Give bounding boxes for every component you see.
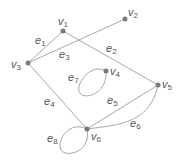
label-e3: e3 — [59, 48, 70, 62]
label-v5: v5 — [162, 78, 173, 92]
vertex-v5 — [156, 83, 161, 88]
edge-e4 — [28, 63, 87, 129]
vertex-v6 — [85, 127, 90, 132]
graph-diagram: v1 v2 v3 v4 v5 v6 e1 e2 e3 e4 e5 e6 e7 e… — [0, 0, 181, 160]
label-v4: v4 — [110, 65, 121, 79]
label-e6: e6 — [130, 117, 141, 131]
label-e5: e5 — [107, 94, 118, 108]
label-e2: e2 — [106, 42, 117, 56]
vertex-v1 — [61, 29, 66, 34]
vertex-v2 — [123, 17, 128, 22]
label-v2: v2 — [128, 6, 139, 20]
label-e7: e7 — [68, 71, 79, 85]
vertex-v4 — [104, 69, 109, 74]
vertex-v3 — [26, 61, 31, 66]
edge-e7-loop — [79, 69, 106, 96]
label-e1: e1 — [35, 34, 46, 48]
label-e8: e8 — [47, 132, 58, 146]
label-v6: v6 — [91, 130, 102, 144]
edge-e8-loop — [60, 127, 88, 154]
label-v1: v1 — [58, 15, 69, 29]
label-e4: e4 — [44, 95, 55, 109]
label-v3: v3 — [11, 58, 22, 72]
